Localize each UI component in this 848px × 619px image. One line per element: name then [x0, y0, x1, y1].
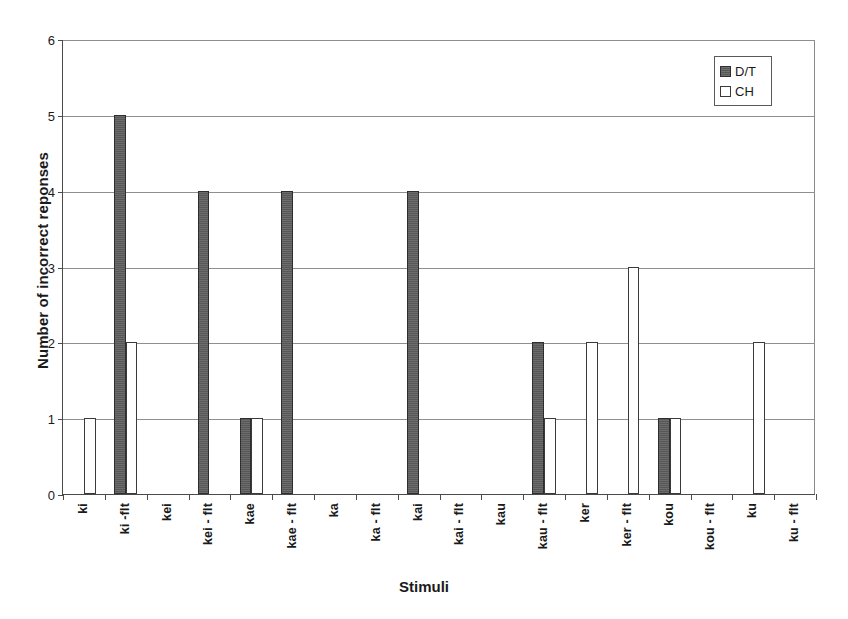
y-tick-mark — [58, 40, 63, 41]
x-tick-mark — [398, 494, 399, 500]
x-tick-label: kae - flt — [285, 503, 299, 549]
bar-ch-14 — [670, 418, 682, 494]
y-tick-mark — [58, 268, 63, 269]
y-tick-mark — [58, 419, 63, 420]
y-tick-label: 5 — [48, 108, 55, 123]
x-tick-mark — [356, 494, 357, 500]
gridline — [63, 40, 815, 41]
x-tick-label: kei - flt — [201, 503, 215, 545]
gridline — [63, 419, 815, 420]
x-tick-label: ki — [76, 503, 90, 514]
y-tick-label: 0 — [48, 488, 55, 503]
bar-ch-11 — [544, 418, 556, 494]
x-tick-label: kei — [160, 503, 174, 521]
chart-legend: D/TCH — [714, 56, 772, 106]
x-tick-label: ka — [327, 503, 341, 517]
x-tick-label: kai — [411, 503, 425, 521]
bar-d-t-5 — [281, 191, 293, 494]
x-tick-mark — [147, 494, 148, 500]
x-tick-mark — [523, 494, 524, 500]
x-tick-label: kou - flt — [703, 503, 717, 550]
x-tick-label: kae — [243, 503, 257, 524]
bar-ch-1 — [126, 342, 138, 494]
x-tick-mark — [63, 494, 64, 500]
legend-label: D/T — [735, 65, 756, 78]
x-tick-mark — [481, 494, 482, 500]
x-tick-label: kai - flt — [452, 503, 466, 545]
x-tick-mark — [691, 494, 692, 500]
y-tick-mark — [58, 192, 63, 193]
bar-ch-0 — [84, 418, 96, 494]
bar-d-t-3 — [198, 191, 210, 494]
bar-ch-12 — [586, 342, 598, 494]
y-tick-mark — [58, 116, 63, 117]
bar-ch-4 — [251, 418, 263, 494]
x-tick-label: kau - flt — [536, 503, 550, 549]
x-tick-label: ki -flt — [118, 503, 132, 534]
bar-chart-figure: Number of incorrect reponses 0123456 kik… — [0, 0, 848, 619]
gridline — [63, 116, 815, 117]
legend-swatch-icon — [720, 66, 731, 77]
x-tick-mark — [565, 494, 566, 500]
bar-d-t-1 — [114, 115, 126, 494]
x-tick-mark — [272, 494, 273, 500]
x-tick-label: ku - flt — [787, 503, 801, 542]
legend-item-d-t: D/T — [720, 61, 767, 81]
bar-d-t-14 — [658, 418, 670, 494]
bar-d-t-8 — [407, 191, 419, 494]
y-tick-label: 6 — [48, 33, 55, 48]
x-tick-mark — [230, 494, 231, 500]
x-tick-mark — [440, 494, 441, 500]
bar-ch-13 — [628, 267, 640, 495]
legend-item-ch: CH — [720, 81, 767, 101]
x-tick-label: kau — [494, 503, 508, 525]
x-tick-mark — [774, 494, 775, 500]
x-tick-label: kou — [662, 503, 676, 526]
x-tick-mark — [314, 494, 315, 500]
bar-d-t-4 — [240, 418, 252, 494]
y-tick-label: 3 — [48, 260, 55, 275]
x-tick-label: ku — [745, 503, 759, 518]
y-tick-mark — [58, 343, 63, 344]
y-tick-label: 4 — [48, 184, 55, 199]
bar-ch-16 — [753, 342, 765, 494]
gridline — [63, 268, 815, 269]
x-tick-mark — [649, 494, 650, 500]
x-tick-mark — [189, 494, 190, 500]
x-tick-mark — [816, 494, 817, 500]
x-tick-label: ker - flt — [620, 503, 634, 546]
bar-d-t-11 — [532, 342, 544, 494]
x-tick-label: ker — [578, 503, 592, 522]
x-tick-mark — [732, 494, 733, 500]
y-tick-label: 2 — [48, 336, 55, 351]
plot-area: 0123456 — [62, 40, 815, 495]
x-tick-label: ka - flt — [369, 503, 383, 541]
gridline — [63, 192, 815, 193]
legend-label: CH — [735, 85, 754, 98]
x-tick-mark — [607, 494, 608, 500]
x-tick-mark — [105, 494, 106, 500]
legend-swatch-icon — [720, 86, 731, 97]
gridline — [63, 343, 815, 344]
y-tick-label: 1 — [48, 412, 55, 427]
x-axis-title: Stimuli — [0, 578, 848, 595]
